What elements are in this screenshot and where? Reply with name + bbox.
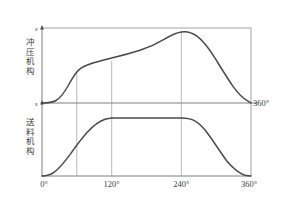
top-panel-y-axis-arrow-icon — [40, 25, 44, 30]
x-tick-0: 0° — [40, 179, 48, 189]
x-tick-120: 120° — [104, 179, 120, 189]
y-axis-symbol-top: s — [35, 25, 38, 32]
chart-canvas: s s 360° 0° 120° 240° 360° — [0, 0, 287, 215]
x-axis-tick-labels: 0° 120° 240° 360° — [40, 179, 257, 189]
displacement-diagram: 冲压机构 送料机构 — [0, 0, 287, 215]
curve-top-group — [42, 32, 251, 103]
curve-bottom-group — [42, 118, 251, 176]
curve-feeding-mechanism — [42, 118, 251, 176]
bottom-panel-frame — [40, 100, 251, 176]
x-tick-360: 360° — [241, 179, 257, 189]
curve-stamping-mechanism — [42, 32, 251, 103]
panel-label-top: 冲压机构 — [24, 38, 33, 76]
y-axis-symbol-bottom: s — [35, 100, 38, 107]
middle-axis-right-label: 360° — [253, 98, 269, 108]
panel-label-bottom: 送料机构 — [24, 118, 33, 156]
x-tick-240: 240° — [173, 179, 189, 189]
